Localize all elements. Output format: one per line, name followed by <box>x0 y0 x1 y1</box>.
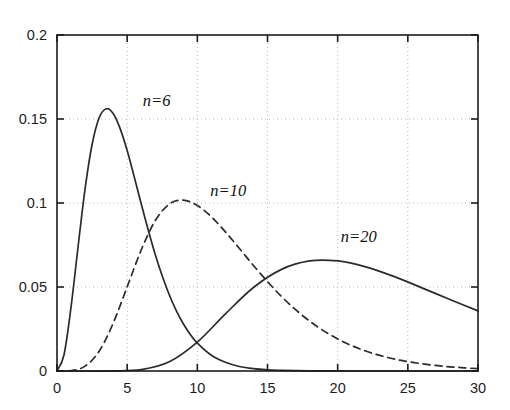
y-tick-label-0.1: 0.1 <box>27 195 47 211</box>
x-tick-label-25: 25 <box>400 380 416 396</box>
x-tick-label-10: 10 <box>189 380 205 396</box>
annotation-n-6: n=6 <box>143 91 171 110</box>
x-tick-label-15: 15 <box>259 380 275 396</box>
annotation-n-10: n=10 <box>210 181 247 200</box>
y-tick-label-0: 0 <box>39 363 47 379</box>
chart-figure: 051015202530 00.050.10.150.2 n=6n=10n=20 <box>0 0 510 410</box>
x-tick-label-0: 0 <box>53 380 61 396</box>
y-tick-label-0.15: 0.15 <box>19 111 47 127</box>
chi-squared-density-plot: 051015202530 00.050.10.150.2 n=6n=10n=20 <box>0 0 510 410</box>
y-axis-tick-labels: 00.050.10.150.2 <box>19 27 47 379</box>
x-tick-label-20: 20 <box>330 380 346 396</box>
y-tick-label-0.05: 0.05 <box>19 279 47 295</box>
x-tick-label-30: 30 <box>470 380 486 396</box>
annotation-n-20: n=20 <box>341 227 378 246</box>
x-axis-tick-labels: 051015202530 <box>53 380 486 396</box>
x-tick-label-5: 5 <box>123 380 131 396</box>
y-tick-label-0.2: 0.2 <box>27 27 47 43</box>
